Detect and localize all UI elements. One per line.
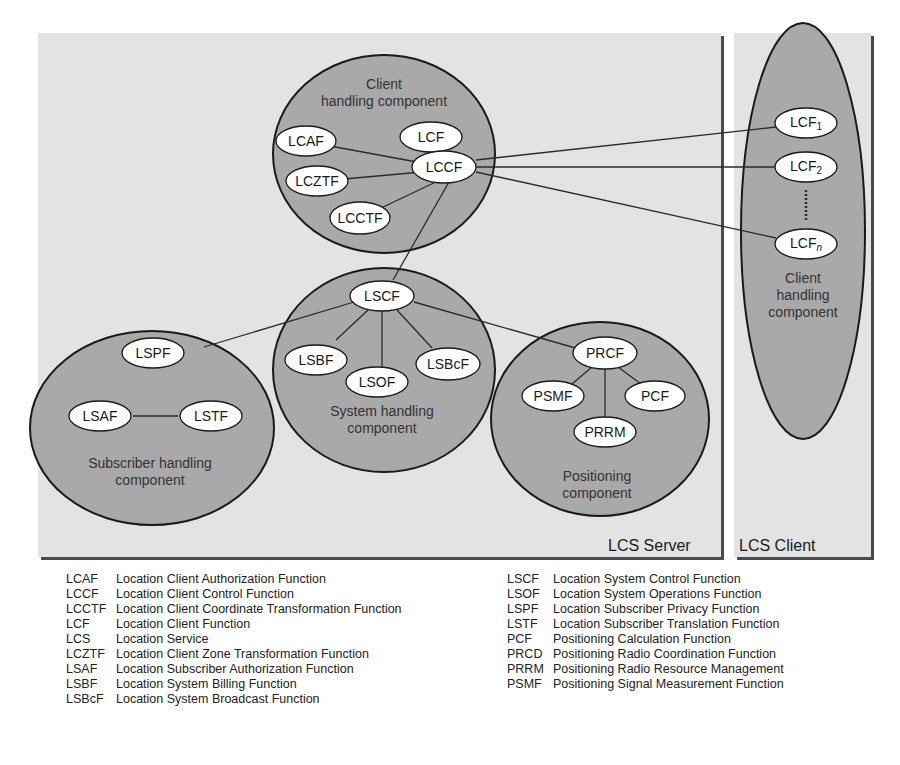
legend-abbr: LSCF — [507, 572, 553, 587]
node-lspf-label: LSPF — [135, 345, 170, 361]
legend-abbr: LSTF — [507, 617, 553, 632]
legend-item: LCCFLocation Client Control Function — [66, 587, 402, 602]
label-base: LCF — [790, 158, 816, 174]
node-lscf-label: LSCF — [364, 288, 400, 304]
label-line: Subscriber handling — [88, 455, 212, 472]
legend-text: Positioning Radio Coordination Function — [553, 647, 776, 662]
legend-item: LCSLocation Service — [66, 632, 402, 647]
node-lcf1-label: LCF1 — [790, 114, 822, 132]
legend-abbr: PCF — [507, 632, 553, 647]
legend-text: Location Subscriber Authorization Functi… — [116, 662, 354, 677]
legend-abbr: LSPF — [507, 602, 553, 617]
legend-item: PSMFPositioning Signal Measurement Funct… — [507, 677, 784, 692]
node-lcztf-label: LCZTF — [295, 173, 339, 189]
legend-text: Positioning Signal Measurement Function — [553, 677, 784, 692]
node-lsof-label: LSOF — [359, 374, 396, 390]
legend-text: Location System Billing Function — [116, 677, 297, 692]
node-lsaf-label: LSAF — [82, 408, 117, 424]
legend-item: LSAFLocation Subscriber Authorization Fu… — [66, 662, 402, 677]
legend-text: Location Client Authorization Function — [116, 572, 326, 587]
label-line: component — [88, 472, 212, 489]
legend-item: LSOFLocation System Operations Function — [507, 587, 784, 602]
legend-item: PCFPositioning Calculation Function — [507, 632, 784, 647]
legend-abbr: LCCF — [66, 587, 116, 602]
legend-text: Location Client Coordinate Transformatio… — [116, 602, 402, 617]
legend-item: LSBcFLocation System Broadcast Function — [66, 692, 402, 707]
legend-text: Location System Broadcast Function — [116, 692, 320, 707]
label-line: Client — [321, 76, 447, 93]
legend-abbr: PRRM — [507, 662, 553, 677]
label-base: LCF — [790, 114, 816, 130]
label-line: handling — [768, 287, 837, 304]
legend-left-column: LCAFLocation Client Authorization Functi… — [66, 572, 402, 707]
client-side-component-label: Client handling component — [768, 270, 837, 321]
node-lcaf-label: LCAF — [288, 133, 324, 149]
label-line: handling component — [321, 93, 447, 110]
node-pcf-label: PCF — [641, 388, 669, 404]
label-subscript: 2 — [816, 165, 822, 176]
legend-item: LSTFLocation Subscriber Translation Func… — [507, 617, 784, 632]
positioning-component-label: Positioning component — [562, 468, 631, 502]
legend-abbr: LSBF — [66, 677, 116, 692]
node-lcfn-label: LCFn — [790, 235, 822, 253]
label-line: component — [562, 485, 631, 502]
legend-abbr: LSBcF — [66, 692, 116, 707]
label-subscript: n — [816, 242, 822, 253]
label-subscript: 1 — [816, 121, 822, 132]
label-line: Client — [768, 270, 837, 287]
legend-abbr: LCCTF — [66, 602, 116, 617]
lcs-client-label: LCS Client — [739, 537, 815, 555]
node-lccf-label: LCCF — [426, 159, 463, 175]
node-lstf-label: LSTF — [194, 408, 228, 424]
legend-abbr: LSAF — [66, 662, 116, 677]
legend-abbr: LCZTF — [66, 647, 116, 662]
label-line: component — [330, 420, 434, 437]
legend-item: LSBFLocation System Billing Function — [66, 677, 402, 692]
legend-abbr: PSMF — [507, 677, 553, 692]
legend-abbr: PRCD — [507, 647, 553, 662]
label-base: LCF — [790, 235, 816, 251]
label-line: System handling — [330, 403, 434, 420]
legend-text: Location Client Control Function — [116, 587, 294, 602]
node-lsbcf-label: LSBcF — [427, 356, 469, 372]
legend-text: Location Client Zone Transformation Func… — [116, 647, 369, 662]
legend-item: LCZTFLocation Client Zone Transformation… — [66, 647, 402, 662]
node-lcf2-label: LCF2 — [790, 158, 822, 176]
node-lsbf-label: LSBF — [298, 352, 333, 368]
legend-text: Location Subscriber Translation Function — [553, 617, 780, 632]
legend-abbr: LSOF — [507, 587, 553, 602]
label-line: Positioning — [562, 468, 631, 485]
legend-text: Location Subscriber Privacy Function — [553, 602, 759, 617]
legend-item: PRRMPositioning Radio Resource Managemen… — [507, 662, 784, 677]
lcs-server-label: LCS Server — [608, 537, 691, 555]
legend-item: LCCTFLocation Client Coordinate Transfor… — [66, 602, 402, 617]
subscriber-handling-component-label: Subscriber handling component — [88, 455, 212, 489]
legend-item: PRCDPositioning Radio Coordination Funct… — [507, 647, 784, 662]
legend-item: LSCFLocation System Control Function — [507, 572, 784, 587]
legend-text: Location System Operations Function — [553, 587, 761, 602]
legend-abbr: LCAF — [66, 572, 116, 587]
node-lcctf-label: LCCTF — [337, 210, 382, 226]
legend-item: LSPFLocation Subscriber Privacy Function — [507, 602, 784, 617]
system-handling-component-label: System handling component — [330, 403, 434, 437]
legend-text: Location Client Function — [116, 617, 250, 632]
node-prcf-label: PRCF — [586, 345, 624, 361]
legend-item: LCAFLocation Client Authorization Functi… — [66, 572, 402, 587]
label-line: component — [768, 304, 837, 321]
node-psmf-label: PSMF — [534, 388, 573, 404]
legend-abbr: LCF — [66, 617, 116, 632]
legend-text: Positioning Radio Resource Management — [553, 662, 784, 677]
legend-right-column: LSCFLocation System Control Function LSO… — [507, 572, 784, 692]
legend-text: Positioning Calculation Function — [553, 632, 731, 647]
node-prrm-label: PRRM — [584, 424, 625, 440]
legend-item: LCFLocation Client Function — [66, 617, 402, 632]
legend-text: Location System Control Function — [553, 572, 741, 587]
legend-text: Location Service — [116, 632, 208, 647]
legend-abbr: LCS — [66, 632, 116, 647]
client-handling-component-label: Client handling component — [321, 76, 447, 110]
node-lcf-label: LCF — [418, 129, 444, 145]
